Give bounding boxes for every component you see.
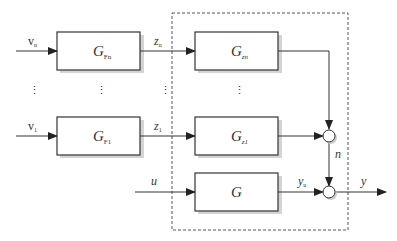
label-G: G [231,184,242,200]
label-n: n [335,147,341,161]
label-zn: zn [153,34,162,48]
label-vn: vn [28,34,37,48]
ellipsis-z: ⋮ [160,84,171,96]
label-y: y [360,174,367,188]
arrow-Gzn-out [278,51,329,129]
ellipsis-GF: ⋮ [96,84,107,96]
label-u: u [151,174,157,188]
ellipsis-Gz: ⋮ [234,84,245,96]
label-z1: z1 [153,119,162,133]
label-yu: yu [297,174,306,188]
sum-junction-top [323,130,335,142]
ellipsis-inputs: ⋮ [29,84,40,96]
block-diagram: GFn Gzn GF1 Gz1 G vn v1 zn z1 u n yu y ⋮… [0,0,397,241]
sum-junction-bottom [323,186,335,198]
label-v1: v1 [28,119,37,133]
